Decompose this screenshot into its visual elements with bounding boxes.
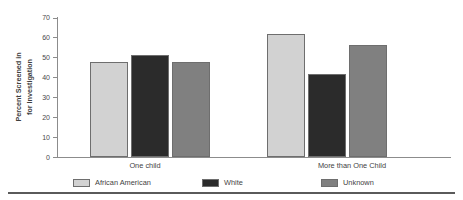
y-tick-label-60: 60: [32, 34, 50, 41]
legend-swatch-white: [202, 179, 219, 187]
legend-item-white: White: [202, 178, 243, 188]
bottom-rule-divider: [8, 192, 455, 194]
legend-label-white: White: [224, 179, 243, 187]
bar-more-than-one-child-african-american: [267, 34, 305, 157]
y-tick-label-40: 40: [32, 74, 50, 81]
bar-one-child-african-american: [90, 62, 128, 157]
legend-swatch-african-american: [73, 179, 90, 187]
y-axis-title-line-1: Percent Screened in: [14, 16, 25, 158]
y-tick-label-50: 50: [32, 54, 50, 61]
bar-one-child-white: [131, 55, 169, 157]
bar-chart-figure: Percent Screened in for Investigation 70…: [0, 0, 463, 200]
chart-legend: African American White Unknown: [0, 178, 463, 190]
bar-one-child-unknown: [172, 62, 210, 157]
y-tick-label-70: 70: [32, 14, 50, 21]
legend-swatch-unknown: [321, 179, 338, 187]
x-axis-group-label-more-than-one-child: More than One Child: [287, 161, 417, 170]
y-tick-label-20: 20: [32, 114, 50, 121]
x-axis-group-label-one-child: One child: [95, 161, 195, 170]
y-tick-mark-0: [53, 157, 57, 158]
y-tick-label-10: 10: [32, 134, 50, 141]
x-axis-line: [57, 157, 451, 158]
legend-item-unknown: Unknown: [321, 178, 374, 188]
legend-item-african-american: African American: [73, 178, 151, 188]
y-tick-label-30: 30: [32, 94, 50, 101]
plot-area: [57, 18, 450, 157]
bar-more-than-one-child-unknown: [349, 45, 387, 157]
legend-label-african-american: African American: [95, 179, 151, 187]
legend-label-unknown: Unknown: [343, 179, 374, 187]
bar-more-than-one-child-white: [308, 74, 346, 157]
y-tick-label-0: 0: [32, 154, 50, 161]
